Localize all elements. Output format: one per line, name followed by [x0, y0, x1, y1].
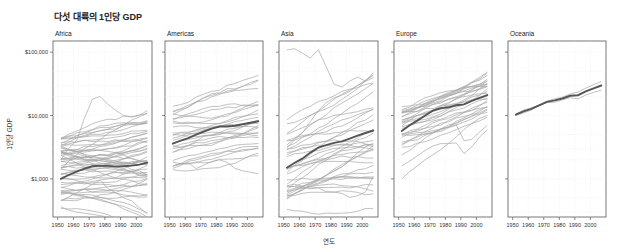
x-tick-label: 1960	[179, 222, 191, 228]
panels-group: Africa195019601970198019902000$1,000$10,…	[25, 30, 606, 236]
panel-asia: Asia195019601970198019902000	[276, 30, 378, 228]
chart-title: 다섯 대륙의 1인당 GDP	[54, 11, 142, 22]
x-tick-label: 1990	[226, 222, 238, 228]
panel-frame	[508, 41, 606, 217]
panel-strip-label: Asia	[281, 30, 294, 37]
x-tick-label: 1980	[325, 222, 337, 228]
x-tick-label: 1990	[455, 222, 467, 228]
x-tick-label: 1950	[278, 222, 290, 228]
x-tick-label: 1960	[522, 222, 534, 228]
panel-strip-label: Europe	[396, 30, 417, 38]
x-tick-label: 1970	[83, 222, 95, 228]
y-tick-label: $10,000	[28, 113, 48, 119]
x-tick-label: 2000	[241, 222, 253, 228]
y-tick-label: $1,000	[31, 176, 48, 182]
x-tick-label: 1950	[393, 222, 405, 228]
gdp-faceted-chart: 다섯 대륙의 1인당 GDP Africa1950196019701980199…	[0, 0, 620, 252]
x-tick-label: 2000	[356, 222, 368, 228]
x-tick-label: 1970	[309, 222, 321, 228]
panel-strip-label: Oceania	[510, 30, 535, 37]
x-tick-label: 1980	[439, 222, 451, 228]
y-axis-title: 1인당 GDP	[5, 118, 13, 150]
x-tick-label: 1990	[340, 222, 352, 228]
x-tick-label: 1980	[99, 222, 111, 228]
x-tick-label: 1990	[569, 222, 581, 228]
panel-americas: Americas195019601970198019902000	[162, 30, 263, 228]
y-tick-label: $100,000	[25, 49, 48, 55]
panel-oceania: Oceania195019601970198019902000	[505, 30, 606, 228]
x-tick-label: 2000	[130, 222, 142, 228]
x-tick-label: 2000	[584, 222, 596, 228]
panel-europe: Europe195019601970198019902000	[391, 30, 492, 228]
panel-strip-label: Americas	[167, 30, 195, 37]
x-tick-label: 1960	[67, 222, 79, 228]
x-tick-label: 1950	[507, 222, 519, 228]
x-tick-label: 1980	[210, 222, 222, 228]
x-tick-label: 1990	[114, 222, 126, 228]
x-tick-label: 1970	[538, 222, 550, 228]
panel-strip-label: Africa	[55, 30, 72, 37]
x-tick-label: 2000	[470, 222, 482, 228]
x-tick-label: 1970	[424, 222, 436, 228]
x-tick-label: 1950	[52, 222, 64, 228]
x-axis-title: 연도	[323, 238, 335, 245]
x-tick-label: 1950	[164, 222, 176, 228]
panel-africa: Africa195019601970198019902000$1,000$10,…	[25, 30, 152, 236]
x-tick-label: 1970	[195, 222, 207, 228]
x-tick-label: 1960	[408, 222, 420, 228]
x-tick-label: 1980	[553, 222, 565, 228]
x-tick-label: 1960	[293, 222, 305, 228]
